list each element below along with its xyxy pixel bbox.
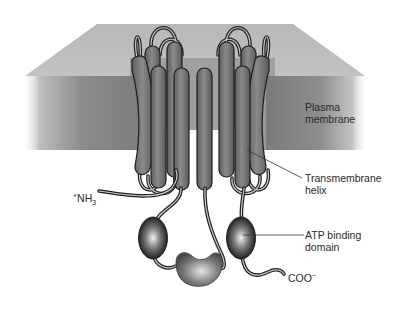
label-plasma-membrane: Plasma membrane (305, 101, 355, 125)
helix (197, 68, 212, 190)
plasma-membrane (22, 24, 368, 150)
atp-binding-domain-right (227, 217, 256, 259)
label-atp-binding-domain: ATP binding domain (305, 229, 361, 253)
membrane-protein-diagram (0, 0, 401, 309)
label-transmembrane-helix: Transmembrane helix (305, 172, 382, 196)
label-c-terminus: COO− (288, 272, 316, 284)
linker-domain (176, 253, 222, 287)
helix (235, 66, 250, 188)
membrane-front-left (22, 76, 140, 150)
helix (219, 42, 234, 177)
helix (151, 66, 166, 188)
label-n-terminus: +NH3 (73, 192, 96, 204)
transmembrane-helices-left (132, 42, 189, 190)
atp-binding-domain-left (139, 217, 168, 259)
